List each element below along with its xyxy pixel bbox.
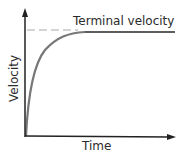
x-axis-arrow-icon <box>167 134 176 140</box>
velocity-curve <box>26 32 175 136</box>
x-axis <box>25 136 170 137</box>
x-axis-label: Time <box>82 140 111 152</box>
y-axis-label: Velocity <box>8 58 20 102</box>
terminal-velocity-label: Terminal velocity <box>73 15 174 27</box>
y-axis-arrow-icon <box>22 8 28 17</box>
